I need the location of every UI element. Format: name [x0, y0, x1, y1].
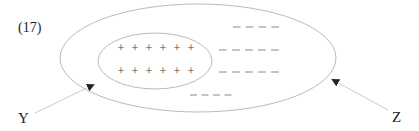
- charge-diagram: (17) ++++++++++++ Y Z: [0, 0, 419, 131]
- plus-sign: +: [117, 40, 124, 55]
- plus-sign: +: [187, 40, 194, 55]
- plus-sign: +: [173, 63, 180, 78]
- plus-sign: +: [131, 63, 138, 78]
- outer-region-ellipse: [60, 4, 336, 112]
- positive-charges: ++++++++++++: [117, 40, 194, 78]
- plus-sign: +: [145, 63, 152, 78]
- label-z: Z: [392, 109, 401, 125]
- arrow-to-inner-region: [35, 85, 93, 113]
- plus-sign: +: [159, 63, 166, 78]
- plus-sign: +: [173, 40, 180, 55]
- plus-sign: +: [145, 40, 152, 55]
- plus-sign: +: [187, 63, 194, 78]
- plus-sign: +: [117, 63, 124, 78]
- arrow-to-outer-region: [333, 80, 388, 110]
- figure-number: (17): [18, 20, 42, 36]
- plus-sign: +: [131, 40, 138, 55]
- inner-region-ellipse: [98, 33, 212, 89]
- negative-charges: [190, 27, 279, 95]
- label-y: Y: [18, 110, 29, 126]
- plus-sign: +: [159, 40, 166, 55]
